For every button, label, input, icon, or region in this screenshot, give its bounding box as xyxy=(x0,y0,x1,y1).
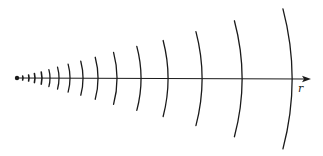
point-source xyxy=(15,76,19,80)
wavefront-diagram: r xyxy=(0,0,323,156)
r-axis xyxy=(17,78,305,79)
axis-label-r: r xyxy=(298,82,304,95)
